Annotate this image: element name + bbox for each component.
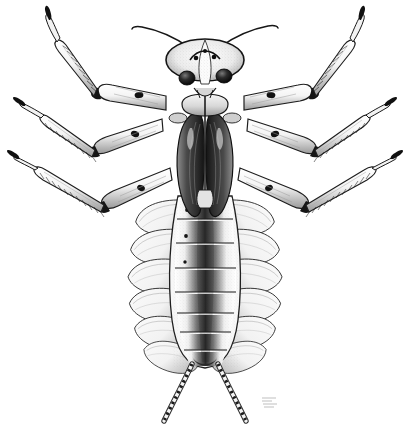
tergum-spot (183, 260, 186, 263)
abdomen (170, 196, 241, 368)
insect-nymph-drawing (0, 0, 410, 427)
tergum-spot (184, 234, 188, 238)
metathorax-plate (197, 190, 213, 208)
ocellus-left (194, 56, 199, 61)
coxa-right (223, 113, 241, 123)
compound-eye-right (216, 69, 232, 83)
abdomen-stipple (172, 196, 240, 368)
illustration-plate (0, 0, 410, 427)
coxa-left (169, 113, 187, 123)
compound-eye-left (179, 71, 195, 85)
